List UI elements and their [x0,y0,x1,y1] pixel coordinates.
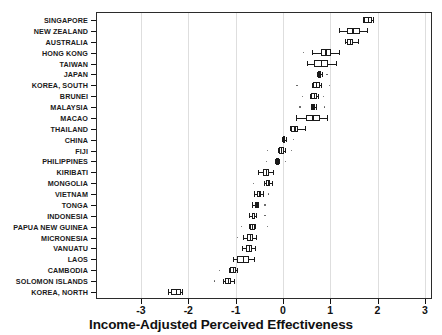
x-tick-label--1: -1 [231,304,240,316]
boxplot-figure: SINGAPORENEW ZEALANDAUSTRALIAHONG KONGTA… [0,0,442,335]
x-tick-label--3: -3 [136,304,145,316]
x-tick-label-0: 0 [280,304,286,316]
boxplot-korea-north [0,0,442,335]
cap-high [182,289,183,294]
x-tick-label-3: 3 [422,304,428,316]
x-tick-label-2: 2 [375,304,381,316]
x-tick-label-1: 1 [327,304,333,316]
cap-low [168,289,169,294]
x-tick-label--2: -2 [184,304,193,316]
median-line [176,289,177,295]
x-axis-title: Income-Adjusted Perceived Effectiveness [0,317,442,332]
